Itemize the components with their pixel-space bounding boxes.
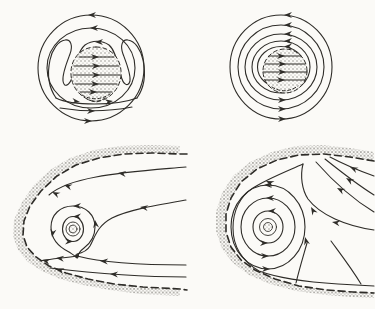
vortex-core-icon [69, 225, 77, 233]
drop-region [263, 49, 307, 93]
figure-canvas [0, 0, 375, 309]
streamline-figure [0, 0, 375, 309]
vortex-core-icon [264, 223, 273, 232]
